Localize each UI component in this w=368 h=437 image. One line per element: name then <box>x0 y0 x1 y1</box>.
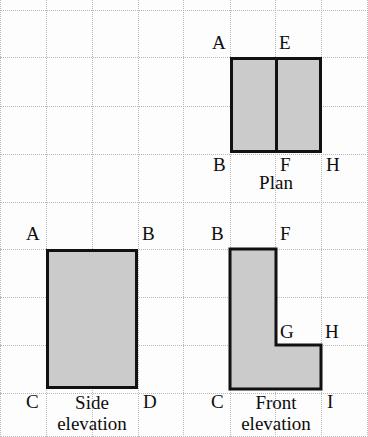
technical-drawing-sheet: Plan Side elevation Front elevation AEBF… <box>0 0 368 437</box>
front-elevation-outline <box>228 247 323 391</box>
vertex-label-plan-b-2: B <box>213 155 226 174</box>
front-elevation-caption: Front elevation <box>206 392 346 434</box>
grid-line-horizontal-4 <box>0 202 368 204</box>
grid-line-horizontal-3 <box>0 154 368 156</box>
plan-caption: Plan <box>206 172 346 193</box>
side-elevation-caption: Side elevation <box>22 392 162 434</box>
grid-line-vertical-3 <box>138 0 140 437</box>
vertex-label-side-elevation-a-0: A <box>26 224 40 243</box>
vertex-label-plan-f-3: F <box>280 155 291 174</box>
front-elevation-polygon <box>230 249 321 389</box>
vertex-label-side-elevation-c-2: C <box>26 392 39 411</box>
vertex-label-side-elevation-d-3: D <box>143 392 157 411</box>
vertex-label-front-elevation-i-5: I <box>327 392 333 411</box>
grid-line-vertical-4 <box>183 0 185 437</box>
vertex-label-plan-e-1: E <box>279 33 291 52</box>
vertex-label-front-elevation-c-4: C <box>211 392 224 411</box>
vertex-label-front-elevation-g-2: G <box>280 322 294 341</box>
grid-line-vertical-0 <box>0 0 2 437</box>
vertex-label-plan-a-0: A <box>212 33 226 52</box>
vertex-label-plan-h-4: H <box>326 155 340 174</box>
vertex-label-front-elevation-f-1: F <box>280 224 291 243</box>
plan-divider-line <box>275 57 278 153</box>
front-elevation-lshape <box>228 247 323 391</box>
vertex-label-side-elevation-b-1: B <box>142 224 155 243</box>
grid-line-horizontal-0 <box>0 10 368 12</box>
side-elevation-rectangle <box>46 249 138 389</box>
vertex-label-front-elevation-h-3: H <box>325 322 339 341</box>
vertex-label-front-elevation-b-0: B <box>211 224 224 243</box>
